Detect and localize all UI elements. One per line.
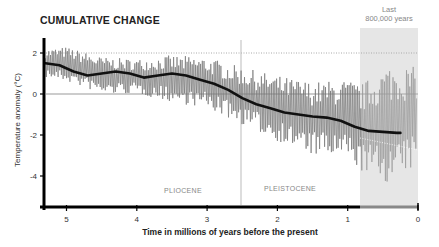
x-tick-label: 1: [345, 215, 350, 224]
epoch-label-pleistocene: PLEISTOCENE: [264, 185, 316, 192]
x-tick-label: 3: [205, 215, 210, 224]
epoch-label-pliocene: PLIOCENE: [164, 187, 202, 194]
y-tick-label: -2: [30, 131, 38, 140]
x-tick-label: 4: [135, 215, 140, 224]
raw-temperature-series: [45, 48, 361, 171]
temperature-chart: 20-2-4 543210 PLIOCENE PLEISTOCENE Time …: [0, 0, 439, 247]
y-axis-label: Temperature anomaly (°C): [13, 73, 22, 167]
y-tick-label: 0: [33, 90, 38, 99]
y-axis-ticks: 20-2-4: [30, 49, 44, 181]
x-tick-label: 2: [275, 215, 280, 224]
y-tick-label: -4: [30, 172, 38, 181]
y-tick-label: 2: [33, 49, 38, 58]
x-tick-label: 5: [64, 215, 69, 224]
x-tick-label: 0: [416, 215, 421, 224]
x-axis-label: Time in millions of years before the pre…: [142, 227, 318, 237]
